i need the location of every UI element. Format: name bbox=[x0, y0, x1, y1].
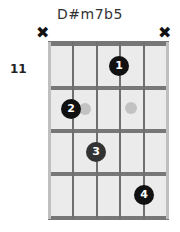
string-5 bbox=[72, 42, 74, 219]
finger-dot-4: 4 bbox=[134, 185, 154, 205]
fret-line-3 bbox=[48, 172, 169, 176]
start-fret-number: 11 bbox=[10, 62, 27, 76]
mute-marker-high-e: ✖ bbox=[158, 25, 171, 41]
finger-dot-2: 2 bbox=[61, 99, 81, 119]
ghost-dot bbox=[125, 102, 137, 114]
fret-line-1 bbox=[48, 86, 169, 90]
string-6 bbox=[48, 42, 51, 219]
string-4 bbox=[96, 42, 98, 219]
string-1 bbox=[166, 42, 169, 219]
chord-title: D#m7b5 bbox=[0, 6, 180, 22]
fret-line-top bbox=[48, 41, 169, 46]
fret-line-2 bbox=[48, 129, 169, 133]
mute-marker-low-e: ✖ bbox=[36, 25, 49, 41]
fret-line-bottom bbox=[48, 216, 169, 220]
finger-dot-1: 1 bbox=[109, 56, 129, 76]
finger-dot-3: 3 bbox=[86, 142, 106, 162]
